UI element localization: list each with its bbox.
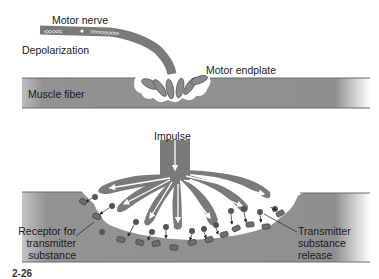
label-receptor-line3: substance bbox=[18, 249, 76, 261]
label-release-line1: Transmitter bbox=[298, 225, 351, 237]
depolarization-origin-dot bbox=[80, 29, 83, 32]
label-receptor-line1: Receptor for bbox=[18, 225, 76, 237]
depolarization-arrows-left: <<<<< bbox=[44, 28, 62, 35]
label-release-line3: release bbox=[298, 249, 351, 261]
label-motor-nerve: Motor nerve bbox=[52, 14, 108, 26]
label-motor-endplate: Motor endplate bbox=[206, 64, 276, 76]
figure-caption-partial: 2-26 bbox=[12, 268, 32, 279]
label-receptor: Receptor for transmitter substance bbox=[18, 225, 76, 261]
label-depolarization: Depolarization bbox=[22, 44, 89, 56]
label-impulse: Impulse bbox=[154, 130, 191, 142]
label-release-line2: substance bbox=[298, 237, 351, 249]
label-muscle-fiber: Muscle fiber bbox=[28, 88, 85, 100]
label-transmitter-release: Transmitter substance release bbox=[298, 225, 351, 261]
label-receptor-line2: transmitter bbox=[18, 237, 76, 249]
